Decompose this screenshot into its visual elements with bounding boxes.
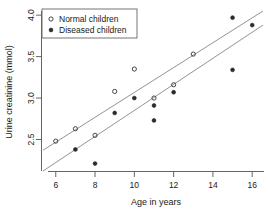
x-tick-label: 6 [53,180,58,190]
data-point-diseased [152,104,156,108]
data-point-diseased [250,23,254,27]
data-point-diseased [152,119,156,123]
data-point-diseased [93,162,97,166]
x-tick-label: 12 [169,180,179,190]
data-point-diseased [172,90,176,94]
data-point-diseased [113,111,117,115]
y-axis: 2.53.03.54.0 Urine creatinine (mmol) [4,9,42,171]
x-tick-label: 8 [93,180,98,190]
x-axis-tick-labels: 6810121416 [53,180,257,190]
plot-canvas: 2.53.03.54.0 Urine creatinine (mmol) 681… [0,0,269,213]
data-point-diseased [73,148,77,152]
y-tick-label: 3.5 [26,50,36,62]
y-axis-tick-labels: 2.53.03.54.0 [26,9,36,145]
data-point-normal [132,67,136,71]
legend-items: Normal childrenDiseased children [49,14,127,35]
y-tick-label: 4.0 [26,9,36,21]
x-axis-title: Age in years [131,197,182,207]
y-tick-label: 2.5 [26,133,36,145]
x-tick-label: 10 [130,180,140,190]
data-point-normal [113,89,117,93]
y-axis-title: Urine creatinine (mmol) [4,45,14,139]
x-axis-ticks [56,172,252,178]
legend-label: Diseased children [59,25,127,35]
y-axis-ticks [36,15,42,139]
data-point-diseased [231,16,235,20]
legend-marker-diseased [49,28,53,32]
x-tick-label: 14 [208,180,218,190]
chart-legend: Normal childrenDiseased children [42,9,137,38]
y-tick-label: 3.0 [26,92,36,104]
data-point-diseased [132,96,136,100]
data-point-diseased [231,68,235,72]
x-axis: 6810121416 Age in years [48,172,264,208]
legend-label: Normal children [59,14,119,24]
x-tick-label: 16 [247,180,257,190]
scatter-plot-figure: 2.53.03.54.0 Urine creatinine (mmol) 681… [0,0,269,213]
